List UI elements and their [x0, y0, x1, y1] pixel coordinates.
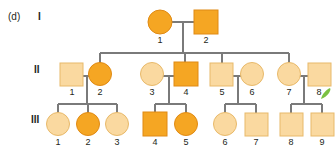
individual-III-3[interactable]	[106, 113, 129, 136]
generation-label-I: I	[38, 11, 41, 22]
individual-III-7[interactable]	[245, 113, 268, 136]
individual-II-8[interactable]	[308, 63, 331, 86]
generation-label-III: III	[31, 114, 39, 125]
number-III-9: 9	[319, 137, 324, 147]
number-II-1: 1	[69, 87, 74, 97]
number-III-8: 8	[288, 137, 293, 147]
generation-label-II: II	[34, 64, 40, 75]
number-III-5: 5	[183, 137, 188, 147]
individual-I-2[interactable]	[194, 10, 218, 34]
number-II-7: 7	[286, 87, 291, 97]
individual-III-2[interactable]	[77, 113, 100, 136]
panel-label: (d)	[8, 11, 20, 22]
number-II-2: 2	[97, 87, 102, 97]
number-II-5: 5	[219, 87, 224, 97]
pedigree-figure: (d) I II III 1 2 1 2 3 4 5 6 7 8 1 2 3 4…	[0, 0, 335, 152]
number-II-4: 4	[183, 87, 188, 97]
number-II-8: 8	[316, 87, 321, 97]
number-III-6: 6	[222, 137, 227, 147]
number-III-7: 7	[253, 137, 258, 147]
individual-II-3[interactable]	[141, 63, 164, 86]
number-I-2: 2	[203, 35, 208, 45]
individual-III-5[interactable]	[175, 113, 198, 136]
generation-III-symbols	[47, 112, 335, 136]
number-III-2: 2	[85, 137, 90, 147]
individual-II-4[interactable]	[174, 62, 198, 86]
number-III-1: 1	[55, 137, 60, 147]
individual-III-8[interactable]	[280, 113, 303, 136]
number-III-3: 3	[114, 137, 119, 147]
number-II-3: 3	[149, 87, 154, 97]
individual-III-9[interactable]	[311, 113, 334, 136]
individual-I-1[interactable]	[148, 10, 172, 34]
generation-II-symbols	[60, 62, 331, 86]
number-I-1: 1	[157, 35, 162, 45]
individual-II-1[interactable]	[60, 63, 83, 86]
individual-II-5[interactable]	[210, 63, 233, 86]
individual-III-1[interactable]	[47, 113, 70, 136]
individual-II-2[interactable]	[89, 63, 112, 86]
proband-arrow-icon	[321, 88, 330, 99]
pedigree-diagram	[0, 0, 335, 152]
number-III-4: 4	[152, 137, 157, 147]
individual-III-4[interactable]	[143, 112, 167, 136]
individual-II-7[interactable]	[278, 63, 301, 86]
individual-II-6[interactable]	[241, 63, 264, 86]
number-II-6: 6	[249, 87, 254, 97]
individual-III-6[interactable]	[214, 113, 237, 136]
